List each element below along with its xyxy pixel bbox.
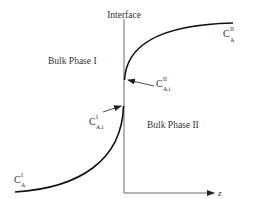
concentration-profile-diagram: Interface Bulk Phase I Bulk Phase II z C… [0,0,253,199]
svg-text:I: I [21,172,23,178]
svg-text:A: A [21,182,26,188]
interface-conc-phase-2-arrow [128,80,154,86]
bulk-phase-1-label: Bulk Phase I [48,56,97,66]
bulk-phase-2-label: Bulk Phase II [147,120,199,130]
phase-2-concentration-curve [125,23,234,80]
phase-1-concentration-curve [15,106,124,192]
svg-text:C: C [14,174,21,185]
svg-text:C: C [156,78,163,89]
svg-text:A: A [230,37,235,43]
interface-conc-phase-2-label: C II A,i [156,76,171,92]
z-axis-label: z [217,188,222,198]
bulk-conc-phase-1-label: C I A [14,172,26,188]
svg-text:C: C [223,28,230,39]
interface-conc-phase-1-arrow [103,106,121,112]
svg-text:II: II [230,26,234,32]
svg-text:A,i: A,i [96,124,104,130]
svg-text:I: I [96,114,98,120]
interface-label: Interface [107,10,141,20]
svg-text:C: C [89,116,96,127]
bulk-conc-phase-2-label: C II A [223,26,235,43]
svg-text:A,i: A,i [163,86,171,92]
svg-text:II: II [163,76,167,82]
interface-conc-phase-1-label: C I A,i [89,114,104,130]
